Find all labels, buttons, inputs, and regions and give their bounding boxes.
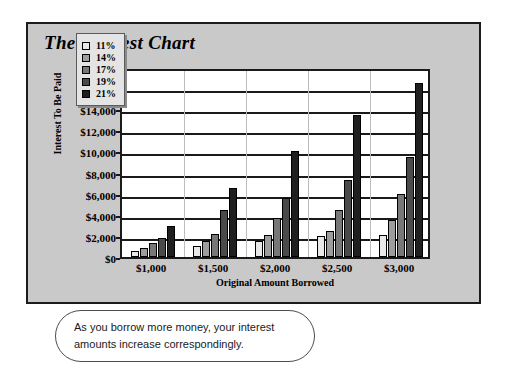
legend-item-label: 19% [96,76,116,87]
y-axis-tick-label: $8,000 [30,169,116,181]
group-separator [370,71,371,257]
bar[interactable] [264,235,272,257]
bar[interactable] [326,231,334,257]
legend-item-label: 14% [96,52,116,63]
bar-group [308,71,370,257]
bar[interactable] [167,226,175,257]
legend-item[interactable]: 11% [82,40,116,51]
bar[interactable] [406,157,414,257]
legend-item[interactable]: 17% [82,64,116,75]
plot-wrapper [120,69,430,259]
legend-item-label: 11% [96,40,115,51]
bar[interactable] [202,241,210,257]
bar[interactable] [335,210,343,258]
y-axis-tick-label: $0 [30,253,116,265]
legend-swatch-icon [82,78,90,86]
bar[interactable] [415,83,423,257]
bar[interactable] [353,115,361,258]
y-axis-tick-label: $12,000 [30,126,116,138]
group-separator [308,71,309,257]
bar[interactable] [149,243,157,257]
x-axis-title: Original Amount Borrowed [120,277,430,288]
x-axis-tick-label: $3,000 [359,262,439,274]
legend-swatch-icon [82,54,90,62]
legend-swatch-icon [82,42,90,50]
group-separator [246,71,247,257]
plot-area [120,69,430,259]
chart-panel: The Interest Chart Interest To Be Paid $… [26,22,481,304]
bar-group [184,71,246,257]
y-axis-tick-label: $6,000 [30,190,116,202]
legend-item[interactable]: 14% [82,52,116,63]
legend-item[interactable]: 19% [82,76,116,87]
y-axis-tick-label: $2,000 [30,232,116,244]
bar[interactable] [193,246,201,257]
bar[interactable] [220,210,228,258]
bar[interactable] [255,241,263,257]
bar-series-layer [122,71,428,257]
bar[interactable] [344,180,352,257]
bar[interactable] [131,251,139,257]
caption-callout: As you borrow more money, your interest … [55,310,315,362]
bar[interactable] [388,220,396,257]
legend-swatch-icon [82,66,90,74]
chart-legend: 11%14%17%19%21% [76,33,125,106]
bar[interactable] [273,218,281,257]
bar[interactable] [140,248,148,258]
bar[interactable] [291,151,299,257]
caption-line-2: amounts increase correspondingly. [74,336,296,353]
legend-item-label: 21% [96,88,116,99]
caption-line-1: As you borrow more money, your interest [74,319,296,336]
y-axis-tick-label: $4,000 [30,211,116,223]
bar[interactable] [379,235,387,257]
bar[interactable] [282,198,290,257]
legend-item-label: 17% [96,64,116,75]
bar-group [370,71,430,257]
legend-item[interactable]: 21% [82,88,116,99]
group-separator [184,71,185,257]
bar[interactable] [229,188,237,257]
bar[interactable] [317,236,325,257]
bar[interactable] [397,194,405,257]
bar[interactable] [211,234,219,257]
y-axis-tick-label: $10,000 [30,147,116,159]
bar-group [246,71,308,257]
legend-swatch-icon [82,90,90,98]
bar[interactable] [158,238,166,257]
bar-group [122,71,184,257]
y-axis-tick-label: $14,000 [30,105,116,117]
